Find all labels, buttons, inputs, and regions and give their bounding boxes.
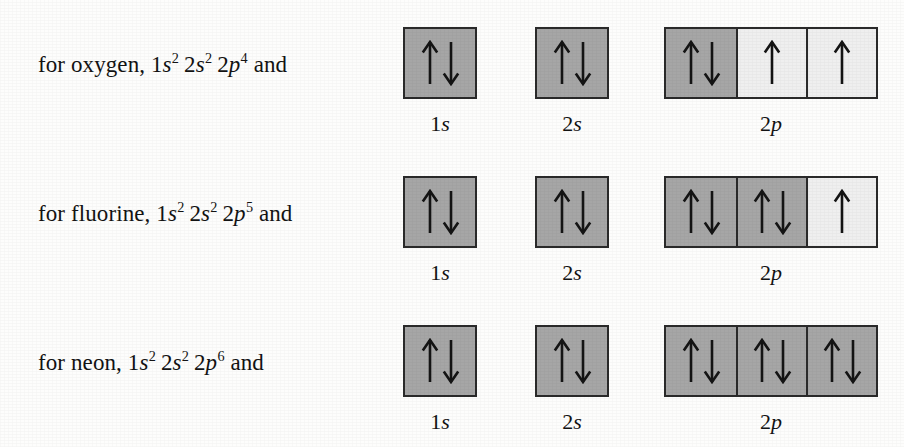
orbital-label: 2p (760, 409, 782, 435)
orbital-group-1s: 1s (403, 325, 477, 435)
orbital-box (537, 327, 607, 395)
config-orbital-letter: s (139, 350, 148, 375)
caption-prefix: for neon, (38, 350, 128, 375)
up-arrow-icon (421, 189, 439, 235)
down-arrow-icon (703, 338, 721, 384)
config-shell: 1 (156, 201, 168, 226)
config-orbital-letter: p (229, 52, 241, 77)
config-orbital-letter: s (168, 201, 177, 226)
config-shell: 2 (194, 350, 206, 375)
orbital-box-row (403, 176, 477, 248)
orbital-label-letter: p (771, 111, 782, 136)
electron-spin-pair (823, 327, 862, 395)
down-arrow-icon (844, 338, 862, 384)
up-arrow-icon (763, 40, 781, 86)
electron-spin-pair (682, 327, 721, 395)
up-arrow-icon (421, 40, 439, 86)
orbital-row-neon: for neon, 1s22s22p6 and1s2s2p (0, 298, 904, 447)
up-arrow-icon (553, 40, 571, 86)
orbital-box-row (535, 325, 609, 397)
config-term: 1s2 (128, 350, 156, 375)
config-term: 2p4 (217, 52, 248, 77)
config-term: 2s2 (189, 201, 217, 226)
down-arrow-icon (774, 338, 792, 384)
config-term: 2s2 (161, 350, 189, 375)
orbital-label: 1s (430, 111, 450, 137)
orbital-box (405, 327, 475, 395)
down-arrow-icon (574, 189, 592, 235)
orbital-label: 2p (760, 111, 782, 137)
orbital-box (537, 29, 607, 97)
config-term: 2s2 (184, 52, 212, 77)
config-electron-count: 4 (241, 50, 248, 66)
config-shell: 1 (128, 350, 140, 375)
config-electron-count: 2 (177, 199, 184, 215)
orbital-label-shell: 2 (760, 111, 771, 136)
orbital-diagram-figure: for oxygen, 1s22s22p4 and1s2s2pfor fluor… (0, 0, 904, 447)
orbital-label-letter: s (441, 260, 450, 285)
electron-spin-pair (682, 29, 721, 97)
orbital-group-2s: 2s (535, 176, 609, 286)
config-term: 1s2 (151, 52, 179, 77)
electron-spin-pair (753, 327, 792, 395)
orbital-box-row (664, 27, 878, 99)
down-arrow-icon (774, 189, 792, 235)
config-electron-count: 2 (205, 50, 212, 66)
config-orbital-letter: s (172, 350, 181, 375)
config-shell: 2 (184, 52, 196, 77)
orbital-box (806, 29, 876, 97)
up-arrow-icon (833, 40, 851, 86)
config-shell: 2 (222, 201, 234, 226)
orbital-label-letter: s (573, 409, 582, 434)
row-caption: for oxygen, 1s22s22p4 and (38, 50, 388, 80)
orbital-box (806, 178, 876, 246)
caption-suffix: and (225, 350, 264, 375)
orbital-label: 2p (760, 260, 782, 286)
electron-spin-pair (421, 327, 460, 395)
orbital-label-shell: 2 (562, 409, 573, 434)
orbital-group-2p: 2p (664, 176, 878, 286)
orbital-box (537, 178, 607, 246)
orbital-box (405, 29, 475, 97)
orbital-label-letter: p (771, 409, 782, 434)
config-shell: 1 (151, 52, 163, 77)
orbital-label: 2s (562, 111, 582, 137)
orbital-group-1s: 1s (403, 27, 477, 137)
config-orbital-letter: s (201, 201, 210, 226)
down-arrow-icon (442, 189, 460, 235)
row-caption: for fluorine, 1s22s22p5 and (38, 199, 388, 229)
orbital-group-1s: 1s (403, 176, 477, 286)
orbital-label-letter: p (771, 260, 782, 285)
down-arrow-icon (703, 189, 721, 235)
orbital-box (736, 327, 806, 395)
config-shell: 2 (217, 52, 229, 77)
orbital-label-shell: 2 (562, 111, 573, 136)
electron-spin-pair (553, 29, 592, 97)
orbital-box-row (403, 27, 477, 99)
orbital-box-row (535, 176, 609, 248)
orbital-row-oxygen: for oxygen, 1s22s22p4 and1s2s2p (0, 0, 904, 149)
orbital-label-shell: 2 (562, 260, 573, 285)
up-arrow-icon (682, 40, 700, 86)
config-orbital-letter: p (206, 350, 218, 375)
config-shell: 2 (161, 350, 173, 375)
config-electron-count: 6 (217, 348, 224, 364)
orbital-group-2p: 2p (664, 27, 878, 137)
electron-spin-pair (753, 178, 792, 246)
electron-spin-pair (833, 178, 851, 246)
config-electron-count: 2 (182, 348, 189, 364)
orbital-box (666, 178, 736, 246)
down-arrow-icon (703, 40, 721, 86)
caption-suffix: and (248, 52, 287, 77)
orbital-label: 2s (562, 260, 582, 286)
config-electron-count: 2 (172, 50, 179, 66)
up-arrow-icon (833, 189, 851, 235)
electron-spin-pair (553, 327, 592, 395)
orbital-label-shell: 2 (760, 260, 771, 285)
orbital-group-2s: 2s (535, 27, 609, 137)
orbital-box (806, 327, 876, 395)
config-electron-count: 2 (210, 199, 217, 215)
up-arrow-icon (823, 338, 841, 384)
orbital-label: 1s (430, 260, 450, 286)
config-term: 2p6 (194, 350, 225, 375)
